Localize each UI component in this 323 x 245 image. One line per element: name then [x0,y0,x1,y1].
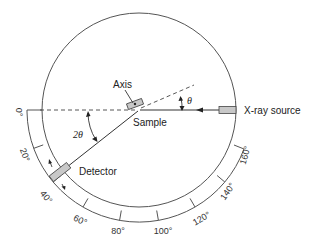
x-ray-source-box [219,107,236,114]
theta-arrow-top [179,96,184,101]
tick-label-120: 120° [191,209,212,227]
x-ray-source-label: X-ray source [244,105,301,116]
detector [49,162,71,181]
beam-direction-arrow [196,108,203,113]
tick-label-100: 100° [154,226,173,236]
tick-label-20: 20° [18,147,32,164]
theta-label: θ [187,95,192,106]
two-theta-arc [88,113,96,140]
axis-label: Axis [113,79,132,90]
scale-ticks [34,145,225,220]
tick-label-60: 60° [72,213,89,228]
tick-label-80: 80° [111,226,125,236]
two-theta-label: 2θ [73,129,83,140]
sample-label: Sample [133,117,167,128]
axis-pointer [125,90,133,103]
tick-label-40: 40° [38,189,55,206]
tick-label-140: 140° [218,180,237,201]
diffractometer-diagram: 0° 20° 40° 60° 80° 100° 120° 140° 160° X… [0,0,323,245]
tick-label-0: 0° [14,108,24,117]
detector-label: Detector [79,166,117,177]
two-theta-arrow-top [86,111,91,117]
